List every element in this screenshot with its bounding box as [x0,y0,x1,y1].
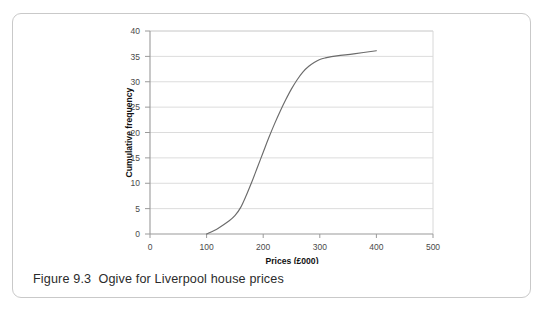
y-tick-label: 30 [131,77,141,87]
ogive-chart: 40 35 30 25 20 15 10 5 0 0 100 200 300 4… [13,14,532,264]
x-axis-title: Prices (£000) [265,256,318,264]
x-tick-label: 400 [369,242,383,252]
figure-card: 40 35 30 25 20 15 10 5 0 0 100 200 300 4… [12,13,531,298]
y-tick-label: 40 [131,26,141,36]
y-tick-label: 10 [131,178,141,188]
x-tick-label: 100 [200,242,214,252]
x-axis [150,234,433,238]
y-tick-label: 5 [135,204,140,214]
horizontal-gridlines [150,31,433,209]
x-tick-label: 200 [256,242,270,252]
y-tick-label: 35 [131,52,141,62]
x-tick-label: 500 [426,242,440,252]
y-axis-title: Cumulative frequency [124,87,134,177]
x-tick-labels: 0 100 200 300 400 500 [148,242,441,252]
y-tick-label: 0 [135,229,140,239]
chart-plot-area: 40 35 30 25 20 15 10 5 0 0 100 200 300 4… [13,14,532,264]
x-tick-label: 300 [313,242,327,252]
ogive-curve [207,51,377,234]
x-tick-label: 0 [148,242,153,252]
figure-caption: Figure 9.3 Ogive for Liverpool house pri… [33,272,284,286]
y-axis [145,31,150,234]
